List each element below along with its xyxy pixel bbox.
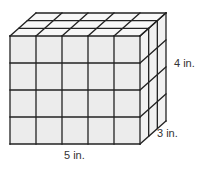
depth-label: 3 in.	[157, 127, 178, 139]
cube-prism-diagram: 4 in. 3 in. 5 in.	[0, 0, 202, 170]
prism-drawing	[0, 0, 202, 170]
height-label: 4 in.	[174, 57, 195, 69]
length-label: 5 in.	[64, 149, 85, 161]
top-face	[10, 13, 166, 36]
